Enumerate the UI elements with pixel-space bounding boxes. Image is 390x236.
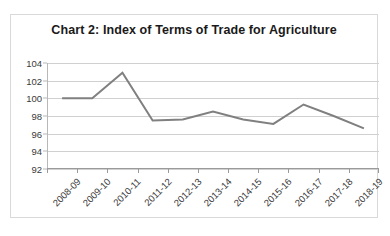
- y-axis-tick-label: 98: [31, 111, 42, 122]
- x-axis-tick-mark: [168, 169, 169, 173]
- x-axis-tick-label: 2013-14: [201, 176, 233, 208]
- x-axis-tick-label: 2014-15: [232, 176, 264, 208]
- series-polyline-terms-of-trade: [62, 73, 364, 129]
- x-axis-tick-label: 2018-19: [352, 176, 384, 208]
- x-axis-tick-mark: [47, 169, 48, 173]
- y-axis-tick-label: 94: [31, 146, 42, 157]
- x-axis-tick-mark: [378, 169, 379, 173]
- gridline: [47, 169, 379, 170]
- chart-container: Chart 2: Index of Terms of Trade for Agr…: [10, 14, 378, 218]
- data-series-line: [47, 63, 379, 169]
- x-axis-tick-label: 2009-10: [81, 176, 113, 208]
- chart-title: Chart 2: Index of Terms of Trade for Agr…: [11, 23, 377, 37]
- x-axis-tick-mark: [138, 169, 139, 173]
- plot-area: 10410210098969492 2008-092009-102010-112…: [47, 63, 379, 169]
- x-axis-tick-mark: [228, 169, 229, 173]
- x-axis-tick-label: 2017-18: [322, 176, 354, 208]
- x-axis-tick-mark: [288, 169, 289, 173]
- x-axis-tick-label: 2012-13: [171, 176, 203, 208]
- y-axis-tick-label: 100: [26, 93, 42, 104]
- x-axis-tick-label: 2016-17: [292, 176, 324, 208]
- y-axis-tick-label: 102: [26, 75, 42, 86]
- y-axis-tick-label: 104: [26, 58, 42, 69]
- y-axis-tick-label: 92: [31, 164, 42, 175]
- x-axis-tick-mark: [319, 169, 320, 173]
- x-axis-tick-mark: [198, 169, 199, 173]
- y-axis-tick-label: 96: [31, 128, 42, 139]
- x-axis-tick-label: 2008-09: [50, 176, 82, 208]
- x-axis-tick-mark: [349, 169, 350, 173]
- x-axis-tick-mark: [77, 169, 78, 173]
- x-axis-tick-label: 2011-12: [141, 176, 173, 208]
- x-axis-tick-mark: [107, 169, 108, 173]
- x-axis-tick-label: 2015-16: [262, 176, 294, 208]
- x-axis-tick-mark: [258, 169, 259, 173]
- x-axis-tick-label: 2010-11: [111, 176, 143, 208]
